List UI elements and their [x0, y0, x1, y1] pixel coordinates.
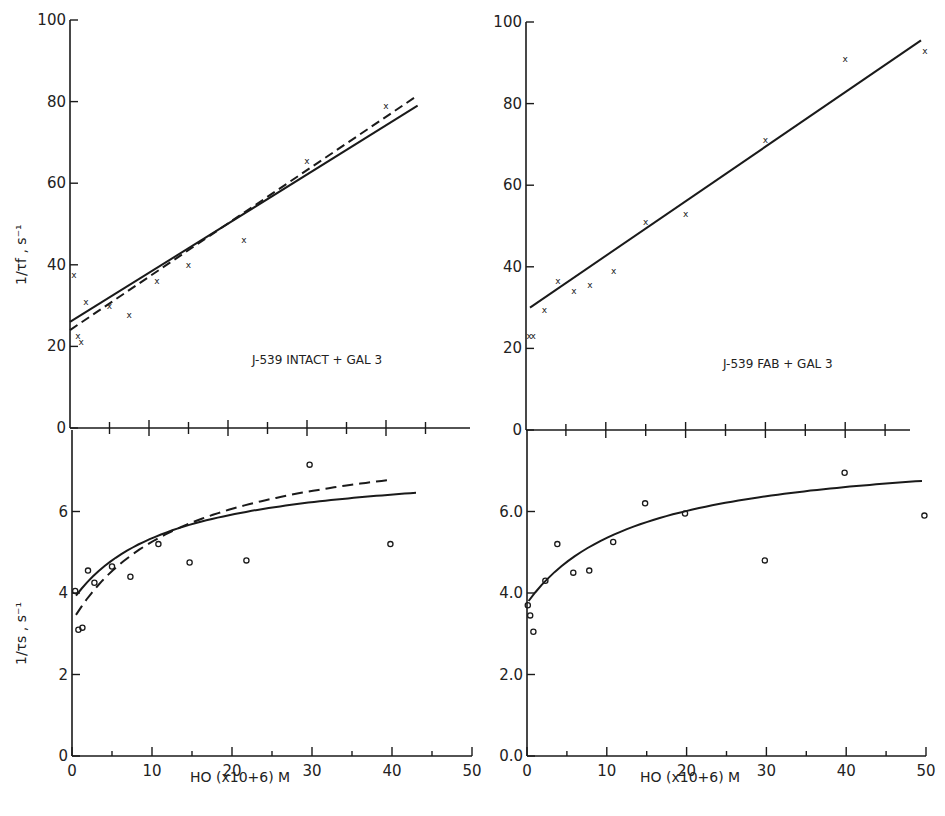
data-point-x: x — [83, 297, 89, 307]
data-point-o — [109, 564, 114, 569]
x-tick-label: 0 — [67, 762, 77, 780]
data-point-o — [587, 568, 592, 573]
y-tick-label: 20 — [47, 337, 66, 355]
fit-line — [530, 40, 921, 307]
x-tick-label: 50 — [916, 762, 935, 780]
data-point-o — [643, 501, 648, 506]
y-tick-label: 4.0 — [499, 584, 523, 602]
y-tick-label: 40 — [47, 256, 66, 274]
panel-top-left: 020406080100xxxxxxxxxxx — [37, 11, 470, 437]
data-point-x: x — [241, 235, 247, 245]
y-tick-label: 4 — [58, 584, 68, 602]
annotation-fab: J-539 FAB + GAL 3 — [722, 357, 833, 371]
data-point-o — [244, 558, 249, 563]
panel-top-right: 020406080100xxxxxxxxxxxx — [493, 13, 928, 439]
data-point-o — [842, 470, 847, 475]
x-tick-label: 40 — [382, 762, 401, 780]
y-tick-label: 80 — [503, 95, 522, 113]
data-point-o — [156, 542, 161, 547]
panel-bottom-right: 0.02.04.06.001020304050 — [499, 430, 935, 780]
data-point-x: x — [571, 286, 577, 296]
fit-curve — [76, 493, 416, 596]
y-axis-title-top: 1/τf , s⁻¹ — [13, 224, 29, 285]
data-point-x: x — [154, 276, 160, 286]
data-point-x: x — [643, 217, 649, 227]
y-tick-label: 6.0 — [499, 503, 523, 521]
y-tick-label: 80 — [47, 93, 66, 111]
data-point-o — [187, 560, 192, 565]
data-point-x: x — [107, 301, 113, 311]
y-tick-label: 20 — [503, 339, 522, 357]
x-tick-label: 30 — [302, 762, 321, 780]
y-tick-label: 60 — [47, 174, 66, 192]
data-point-o — [85, 568, 90, 573]
y-tick-label: 100 — [37, 11, 66, 29]
x-tick-label: 50 — [462, 762, 481, 780]
data-point-x: x — [78, 337, 84, 347]
figure: 020406080100xxxxxxxxxxx02460102030405002… — [0, 0, 945, 816]
x-tick-label: 0 — [522, 762, 532, 780]
data-point-o — [571, 570, 576, 575]
x-tick-label: 40 — [837, 762, 856, 780]
y-tick-label: 40 — [503, 258, 522, 276]
data-point-x: x — [71, 270, 77, 280]
y-tick-label: 0 — [56, 419, 66, 437]
data-point-o — [762, 558, 767, 563]
y-tick-label: 0.0 — [499, 747, 523, 765]
x-axis-title-right: HO (x10+6) M — [640, 769, 740, 785]
data-point-x: x — [611, 266, 617, 276]
data-point-o — [531, 629, 536, 634]
data-point-o — [388, 542, 393, 547]
data-point-x: x — [587, 280, 593, 290]
data-point-x: x — [383, 101, 389, 111]
x-axis-title-left: HO (x10+6) M — [190, 769, 290, 785]
x-tick-label: 10 — [597, 762, 616, 780]
panel-bottom-left: 024601020304050 — [58, 430, 481, 780]
fit-curve — [529, 481, 922, 601]
data-point-o — [611, 539, 616, 544]
x-tick-label: 30 — [757, 762, 776, 780]
annotation-intact: J-539 INTACT + GAL 3 — [251, 353, 382, 367]
data-point-x: x — [531, 331, 537, 341]
y-tick-label: 6 — [58, 503, 68, 521]
y-tick-label: 2 — [58, 666, 68, 684]
data-point-o — [307, 462, 312, 467]
y-tick-label: 100 — [493, 13, 522, 31]
fit-curve — [76, 480, 392, 615]
y-axis-title-bottom: 1/τs , s⁻¹ — [13, 602, 29, 665]
y-tick-label: 0 — [512, 421, 522, 439]
data-point-x: x — [186, 260, 192, 270]
data-point-x: x — [763, 135, 769, 145]
data-point-x: x — [542, 305, 548, 315]
fit-line — [70, 95, 418, 330]
y-tick-label: 2.0 — [499, 666, 523, 684]
data-point-o — [128, 574, 133, 579]
data-point-o — [555, 542, 560, 547]
data-point-x: x — [555, 276, 561, 286]
fit-line — [70, 106, 418, 322]
data-point-o — [528, 613, 533, 618]
data-point-o — [92, 580, 97, 585]
data-point-x: x — [304, 156, 310, 166]
data-point-x: x — [683, 209, 689, 219]
data-point-x: x — [127, 310, 133, 320]
data-point-x: x — [922, 46, 928, 56]
x-tick-label: 10 — [142, 762, 161, 780]
data-point-o — [922, 513, 927, 518]
y-tick-label: 60 — [503, 176, 522, 194]
data-point-x: x — [843, 54, 849, 64]
